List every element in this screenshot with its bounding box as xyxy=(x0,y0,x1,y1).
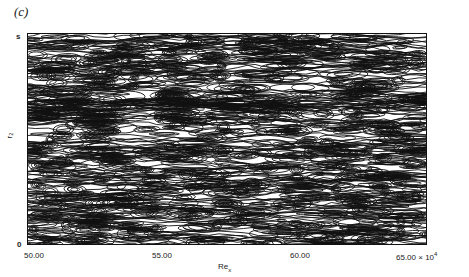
x-axis-label-main: Re xyxy=(218,262,228,271)
x-tick-60: 60.00 xyxy=(290,251,310,260)
x-axis-label: Rex xyxy=(218,262,231,273)
y-axis-label: r₂ xyxy=(5,133,14,139)
x-tick-50: 50.00 xyxy=(24,251,44,260)
contour-plot-area xyxy=(27,33,427,245)
y-tick-bottom: 0 xyxy=(17,240,21,249)
x-tick-exponent: 4 xyxy=(434,251,437,257)
x-axis-label-sub: x xyxy=(228,267,231,273)
x-tick-55: 55.00 xyxy=(152,251,172,260)
x-tick-65-text: 65.00 × 10 xyxy=(396,253,434,262)
panel-label: (c) xyxy=(14,4,28,20)
x-tick-65: 65.00 × 104 xyxy=(396,251,437,262)
contour-lines xyxy=(28,34,427,245)
y-tick-top: s xyxy=(16,32,20,41)
